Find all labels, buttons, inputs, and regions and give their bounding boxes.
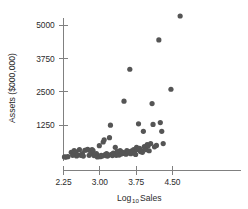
x-tick-label: 3.75 xyxy=(128,177,144,187)
scatter-point xyxy=(158,120,163,125)
y-tick-label: 1250 xyxy=(36,120,55,130)
scatter-point xyxy=(65,154,70,159)
scatter-point xyxy=(178,13,183,18)
scatter-point xyxy=(127,67,132,72)
scatter-point xyxy=(81,154,86,159)
scatter-point xyxy=(159,129,164,134)
scatter-point xyxy=(149,101,154,106)
scatter-point xyxy=(161,141,166,146)
y-tick-label: 5000 xyxy=(36,20,55,30)
scatter-point xyxy=(133,152,138,157)
data-points xyxy=(62,13,183,159)
x-axis-title: Log 10 Sales xyxy=(117,193,162,204)
x-axis-title-subscript: 10 xyxy=(132,197,139,204)
x-axis-ticks: 2.253.003.754.50 xyxy=(56,166,181,187)
x-tick-label: 2.25 xyxy=(56,177,72,187)
scatter-point xyxy=(97,143,102,148)
scatter-point xyxy=(154,143,159,148)
scatter-point xyxy=(108,123,113,128)
y-axis-title: Assets ($000,000) xyxy=(7,53,17,123)
scatter-point xyxy=(136,121,141,126)
scatter-point xyxy=(168,87,173,92)
scatter-point xyxy=(156,37,161,42)
scatter-point xyxy=(147,148,152,153)
scatter-point xyxy=(107,135,112,140)
x-tick-label: 3.00 xyxy=(92,177,108,187)
scatter-point xyxy=(141,129,146,134)
x-axis-title-rest: Sales xyxy=(140,193,162,203)
chart-canvas: 1250250037505000 2.253.003.754.50 Assets… xyxy=(0,0,248,209)
scatter-point xyxy=(121,99,126,104)
scatter-chart: 1250250037505000 2.253.003.754.50 Assets… xyxy=(0,0,248,209)
scatter-point xyxy=(102,137,107,142)
x-axis-title-base: Log xyxy=(117,193,132,203)
x-tick-label: 4.50 xyxy=(164,177,180,187)
y-tick-label: 2500 xyxy=(36,87,55,97)
scatter-point xyxy=(150,122,155,127)
y-tick-label: 3750 xyxy=(36,54,55,64)
